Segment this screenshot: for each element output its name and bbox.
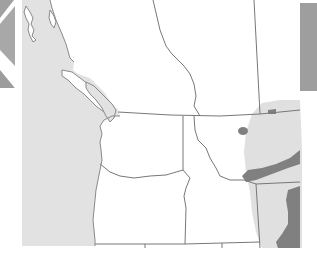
right-edge-panel bbox=[300, 3, 317, 91]
ocean bbox=[22, 0, 120, 246]
left-edge-graphic bbox=[0, 0, 15, 88]
range-map bbox=[0, 0, 317, 279]
map-canvas bbox=[0, 0, 317, 279]
